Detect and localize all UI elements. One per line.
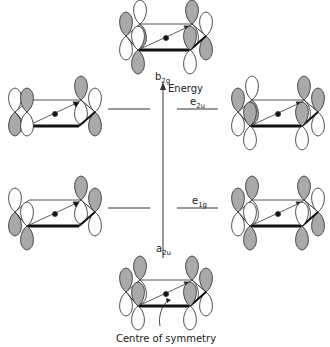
- energy-label: Energy: [168, 83, 203, 94]
- label-b2g: b2g: [155, 71, 170, 85]
- orbital-e2u-left: [9, 76, 102, 136]
- label-a2u: a2u: [156, 243, 171, 257]
- benzene-mo-diagram: Energy b2g e2u e1g a2u: [0, 0, 330, 347]
- orbital-e1g-right: [232, 176, 325, 250]
- orbital-e1g-left: [9, 176, 102, 250]
- orbital-e2u-right: [232, 76, 325, 150]
- orbital-a2u: [120, 256, 213, 330]
- pointer-arrowhead-icon: [166, 298, 171, 303]
- orbital-b2g: [120, 0, 213, 74]
- centre-of-symmetry-caption: Centre of symmetry: [116, 333, 216, 344]
- label-e2u: e2u: [190, 96, 205, 110]
- centre-pointer: [159, 298, 171, 326]
- label-e1g: e1g: [192, 195, 207, 209]
